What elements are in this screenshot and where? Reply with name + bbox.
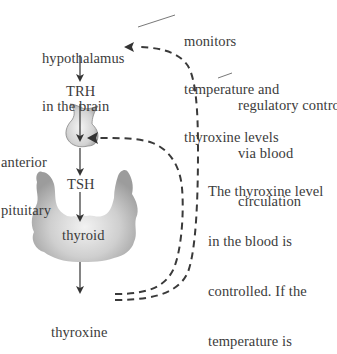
- explanation-line: controlled. If the: [208, 283, 323, 300]
- explanation-line: The thyroxine level: [208, 183, 323, 200]
- pituitary-label: anterior pituitary: [1, 122, 51, 234]
- tsh-label: TSH: [67, 176, 95, 192]
- monitors-line1: monitors: [184, 33, 279, 49]
- pituitary-label-line1: anterior: [1, 154, 51, 170]
- explanation-text: The thyroxine level in the blood is cont…: [208, 150, 323, 354]
- thyroxine-label-line1: thyroxine: [51, 324, 111, 340]
- explanation-line: temperature is: [208, 333, 323, 350]
- explanation-line: in the blood is: [208, 233, 323, 250]
- trh-label: TRH: [66, 83, 95, 99]
- feedback-arrowhead-hypothalamus: [124, 42, 134, 52]
- pituitary-label-line2: pituitary: [1, 202, 51, 218]
- thyroxine-label: thyroxine released into blood: [51, 292, 111, 354]
- hypothalamus-label-line1: hypothalamus: [42, 50, 125, 66]
- hypothalamus-label-line2: in the brain: [42, 98, 125, 114]
- leader-line-monitors: [138, 15, 175, 27]
- hypothalamus-label: hypothalamus in the brain: [42, 18, 125, 130]
- regulatory-line1: regulatory control: [238, 97, 337, 113]
- thyroid-label: thyroid: [62, 227, 105, 243]
